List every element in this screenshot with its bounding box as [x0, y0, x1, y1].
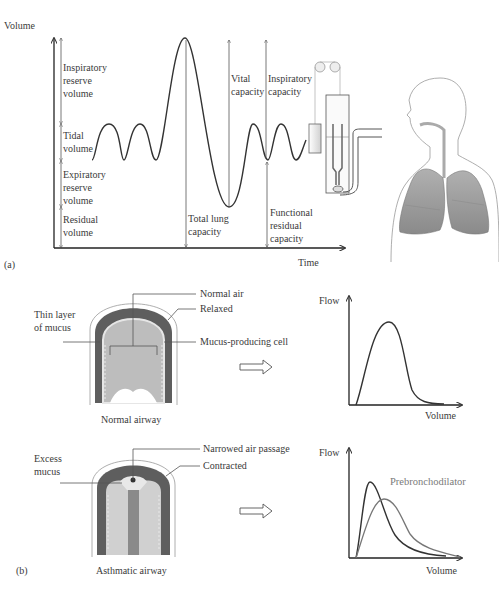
counterweight — [309, 124, 321, 153]
asthmatic-airway-caption: Asthmatic airway — [96, 565, 167, 576]
normal-air-label: Normal air — [200, 288, 244, 299]
hollow-right-arrow-icon — [240, 360, 272, 374]
hollow-right-arrow-icon-2 — [240, 504, 272, 518]
panel-a-label: (a) — [4, 259, 15, 271]
lung-volume-chart: Volume Time Inspiratory reserve volume T… — [4, 20, 345, 271]
residual-label: Residual volume — [63, 214, 101, 238]
normal-flow-curve — [356, 322, 444, 405]
inspiratory-capacity-label: Inspiratory capacity — [268, 73, 314, 97]
thin-mucus-label: Thin layer of mucus — [34, 309, 78, 333]
spirogram-trace — [92, 38, 306, 207]
prebronchodilator-label: Prebronchodilator — [390, 476, 466, 487]
relaxed-leader — [168, 309, 196, 320]
total-lung-capacity-label: Total lung capacity — [188, 213, 231, 237]
spirometer-illustration — [309, 62, 382, 195]
irv-label: Inspiratory reserve volume — [63, 62, 109, 99]
erv-label: Expiratory reserve volume — [63, 169, 108, 206]
panel-b-label: (b) — [16, 565, 28, 577]
volume-axis-label-2: Volume — [426, 565, 457, 576]
volume-axis-label: Volume — [425, 410, 456, 421]
excess-mucus-label: Excess mucus — [34, 453, 64, 477]
normal-airway-caption: Normal airway — [101, 414, 161, 425]
vital-capacity-label: Vital capacity — [231, 73, 264, 97]
flow-axis-label-2: Flow — [319, 447, 340, 458]
narrowed-passage-label: Narrowed air passage — [203, 443, 290, 454]
y-axis-label: Volume — [4, 20, 35, 31]
postbronchodilator-curve — [356, 482, 446, 558]
asthmatic-flow-volume-chart: Flow Volume Prebronchodilator — [319, 447, 466, 576]
spirometer-bell — [326, 95, 349, 193]
contracted-label: Contracted — [203, 460, 247, 471]
frc-label: Functional residual capacity — [270, 207, 315, 244]
tidal-label: Tidal volume — [63, 130, 94, 154]
contracted-leader — [166, 466, 200, 476]
relaxed-label: Relaxed — [200, 303, 233, 314]
flow-axis-label: Flow — [319, 295, 340, 306]
human-lungs-illustration — [391, 78, 499, 262]
normal-airway-illustration — [90, 304, 177, 405]
x-axis-label: Time — [298, 257, 319, 268]
asthmatic-airway-illustration — [92, 460, 175, 557]
figure-canvas: Volume Time Inspiratory reserve volume T… — [0, 0, 499, 594]
prebronchodilator-curve — [356, 499, 460, 558]
normal-flow-volume-chart: Flow Volume — [319, 295, 462, 421]
mucus-cell-label: Mucus-producing cell — [200, 336, 288, 347]
